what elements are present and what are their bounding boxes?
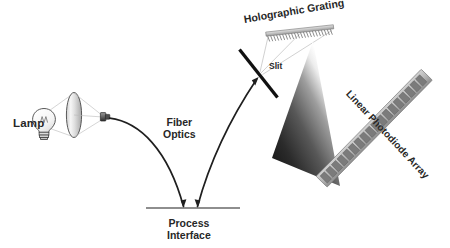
holographic-grating bbox=[266, 25, 335, 42]
lamp-base-icon bbox=[39, 132, 49, 139]
slit-label: Slit bbox=[269, 62, 282, 72]
fiber-optics-label-line1: Fiber bbox=[163, 117, 196, 129]
fiber-termination-arrows bbox=[181, 199, 201, 207]
fiber-return-leg bbox=[198, 80, 257, 207]
process-interface-label-line2: Interface bbox=[167, 230, 211, 242]
fiber-optic-bundle bbox=[110, 80, 257, 207]
lamp-label: Lamp bbox=[13, 117, 44, 130]
slit-plate bbox=[240, 50, 278, 98]
fiber-optics-label: Fiber Optics bbox=[163, 117, 196, 141]
process-interface-label-line1: Process bbox=[167, 218, 211, 230]
fiber-connector bbox=[100, 113, 109, 121]
process-interface-label: Process Interface bbox=[167, 218, 211, 242]
spectrometer-diagram: Lamp Fiber Optics Process Interface Slit… bbox=[0, 0, 450, 248]
fiber-optics-label-line2: Optics bbox=[163, 129, 196, 141]
